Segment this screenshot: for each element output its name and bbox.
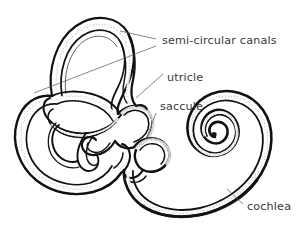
diagram-labels: semi-circular canals utricle saccule coc…	[160, 34, 291, 213]
leader-semi-circular-canals-upper	[120, 31, 156, 39]
diagram-canvas: semi-circular canals utricle saccule coc…	[0, 0, 302, 230]
leader-utricle	[136, 74, 163, 98]
label-saccule: saccule	[160, 100, 203, 113]
label-cochlea: cochlea	[247, 200, 291, 213]
inner-ear-diagram: semi-circular canals utricle saccule coc…	[0, 0, 302, 230]
posterior-semicircular-canal	[15, 92, 121, 195]
label-utricle: utricle	[167, 71, 203, 84]
vestibule-utricle-saccule	[82, 105, 169, 182]
label-semi-circular-canals: semi-circular canals	[162, 34, 277, 47]
